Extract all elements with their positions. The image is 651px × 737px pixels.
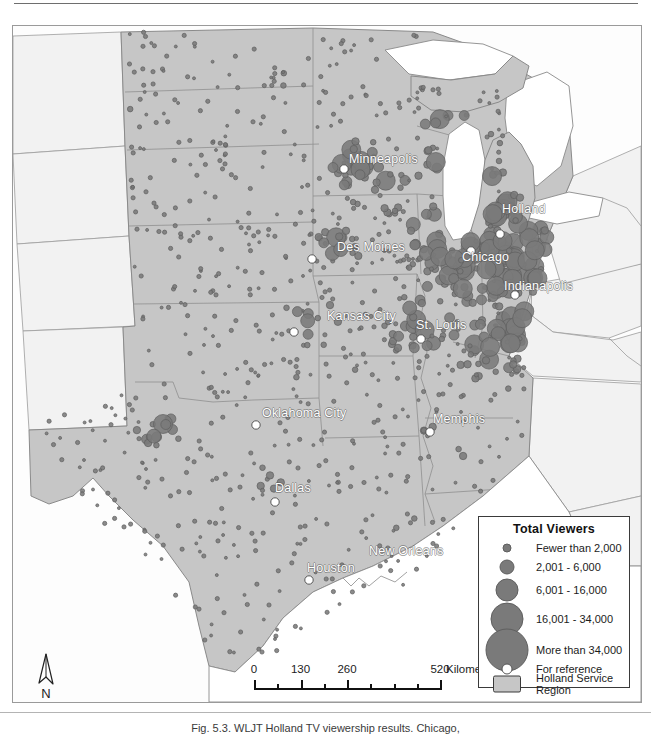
viewer-dot: [222, 534, 225, 537]
viewer-dot: [415, 136, 419, 140]
viewer-dot: [188, 138, 192, 142]
legend-size-dot: [496, 579, 519, 602]
viewer-dot: [305, 342, 311, 348]
viewer-dot: [129, 178, 133, 182]
viewer-dot: [334, 318, 341, 325]
viewer-dot: [339, 180, 349, 190]
viewer-dot: [408, 179, 411, 182]
viewer-dot: [328, 64, 331, 67]
viewer-dot: [326, 191, 330, 195]
reference-city-marker: [340, 165, 348, 173]
reference-city-marker: [467, 247, 475, 255]
viewer-dot: [168, 494, 172, 498]
viewer-dot: [180, 547, 184, 551]
viewer-dot: [422, 281, 432, 291]
viewer-dot: [162, 69, 165, 72]
viewer-dot: [392, 361, 395, 364]
viewer-dot: [283, 429, 287, 433]
viewer-dot: [378, 193, 382, 197]
viewer-dot: [257, 374, 260, 377]
viewer-dot: [217, 272, 221, 276]
viewer-dot: [295, 357, 299, 361]
viewer-dot: [378, 564, 382, 568]
reference-city-marker: [252, 421, 260, 429]
bottom-divider-rule: [0, 712, 651, 713]
viewer-dot: [243, 269, 247, 273]
viewer-dot: [360, 301, 364, 305]
viewer-dot: [215, 149, 218, 152]
viewer-dot: [203, 638, 207, 642]
viewer-dot: [377, 379, 380, 382]
viewer-dot: [427, 455, 431, 459]
viewer-dot: [416, 97, 419, 100]
viewer-dot: [405, 254, 409, 258]
viewer-dot: [324, 459, 328, 463]
scale-bar-tick: [347, 680, 349, 690]
scale-bar-tick: [277, 684, 279, 690]
viewer-dot: [177, 255, 181, 259]
viewer-dot: [335, 472, 339, 476]
viewer-dot: [397, 451, 401, 455]
viewer-dot: [496, 158, 502, 164]
viewer-dot: [497, 190, 500, 193]
viewer-dot: [223, 162, 227, 166]
viewer-dot: [476, 361, 482, 367]
viewer-dot: [401, 442, 405, 446]
viewer-dot: [406, 475, 410, 479]
viewer-dot: [258, 241, 261, 244]
scale-bar-labels: 0130260520Kilometers: [254, 663, 454, 678]
viewer-dot: [248, 293, 252, 297]
viewer-dot: [257, 287, 260, 290]
viewer-dot: [459, 395, 463, 399]
viewer-dot: [320, 295, 324, 299]
viewer-dot: [306, 302, 309, 305]
viewer-dot: [234, 319, 238, 323]
viewer-dot: [330, 577, 334, 581]
viewer-dot: [146, 480, 150, 484]
viewer-dot: [302, 274, 305, 277]
viewer-dot: [496, 303, 503, 310]
viewer-dot: [341, 346, 345, 350]
viewer-dot: [420, 119, 430, 129]
viewer-dot: [184, 333, 187, 336]
viewer-dot: [120, 394, 123, 397]
viewer-dot: [227, 391, 230, 394]
viewer-dot: [374, 217, 377, 220]
viewer-dot: [390, 555, 393, 558]
viewer-dot: [349, 484, 353, 488]
viewer-dot: [412, 516, 418, 522]
viewer-dot: [226, 124, 229, 127]
viewer-dot: [248, 249, 252, 253]
viewer-dot: [398, 106, 402, 110]
viewer-dot: [143, 91, 146, 94]
viewer-dot: [353, 44, 356, 47]
viewer-dot: [161, 420, 171, 430]
viewer-dot: [503, 269, 522, 288]
viewer-dot: [76, 440, 80, 444]
viewer-dot: [203, 162, 207, 166]
viewer-dot: [451, 323, 457, 329]
viewer-dot: [485, 135, 489, 139]
viewer-dot: [369, 314, 373, 318]
viewer-dot: [414, 567, 418, 571]
viewer-dot: [496, 109, 500, 113]
viewer-dot: [162, 213, 166, 217]
viewer-dot: [127, 403, 131, 407]
viewer-dot: [151, 70, 155, 74]
viewer-dot: [516, 420, 519, 423]
viewer-dot: [281, 83, 287, 89]
viewer-dot: [529, 288, 536, 295]
viewer-dot: [356, 262, 359, 265]
viewer-dot: [249, 368, 253, 372]
viewer-dot: [501, 334, 520, 353]
viewer-dot: [417, 366, 421, 370]
viewer-dot: [483, 205, 502, 224]
viewer-dot: [293, 624, 297, 628]
viewer-dot: [493, 392, 497, 396]
viewer-dot: [363, 312, 367, 316]
viewer-dot: [197, 607, 201, 611]
viewer-dot: [431, 488, 434, 491]
viewer-dot: [199, 447, 203, 451]
viewer-dot: [180, 301, 183, 304]
viewer-dot: [248, 243, 251, 246]
